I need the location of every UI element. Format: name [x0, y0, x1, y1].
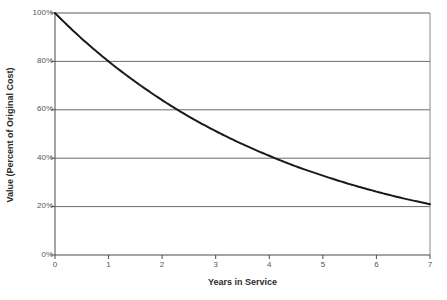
x-tick-label-6: 6: [366, 260, 386, 269]
x-tick-label-5: 5: [313, 260, 333, 269]
x-axis-title: Years in Service: [55, 277, 430, 287]
y-axis-ticks: [51, 13, 55, 255]
plot-area: [0, 0, 447, 300]
x-tick-label-4: 4: [259, 260, 279, 269]
x-tick-label-0: 0: [45, 260, 65, 269]
plot-background: [55, 13, 430, 255]
x-tick-label-2: 2: [152, 260, 172, 269]
x-tick-label-7: 7: [420, 260, 440, 269]
x-tick-label-1: 1: [99, 260, 119, 269]
chart-container: Value (Percent of Original Cost) 100% 80…: [0, 0, 447, 300]
x-axis-ticks: [55, 255, 430, 259]
x-tick-label-3: 3: [206, 260, 226, 269]
